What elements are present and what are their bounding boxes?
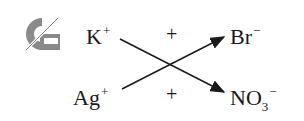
arrow-k-to-no3 xyxy=(120,39,224,92)
exchange-arrows xyxy=(0,0,304,121)
arrow-ag-to-br xyxy=(122,37,224,89)
